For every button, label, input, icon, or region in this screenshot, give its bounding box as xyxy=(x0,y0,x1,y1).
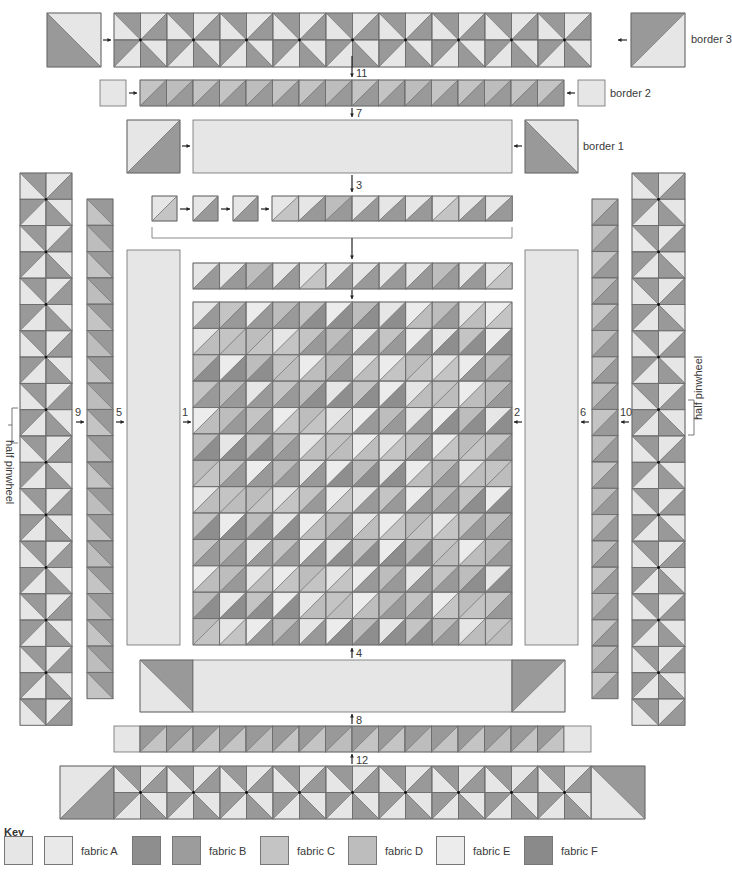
arrow-icon xyxy=(183,420,191,424)
border-1-top-left-corner xyxy=(127,120,180,173)
right-border-1-strip xyxy=(525,250,578,645)
border-1-top-strip xyxy=(193,120,512,173)
step-label-6: 6 xyxy=(580,406,586,418)
fabric-swatch-fabric-f xyxy=(524,836,553,865)
step-label-10: 10 xyxy=(620,406,632,418)
fabric-label: fabric F xyxy=(561,845,598,857)
arrow-icon xyxy=(567,91,575,95)
arrow-icon xyxy=(261,207,269,211)
border-2-top-left-square xyxy=(100,80,126,106)
step-label-1: 1 xyxy=(182,406,188,418)
grid-top-row xyxy=(193,263,512,289)
fabric-swatch-fabric-a xyxy=(4,836,33,865)
arrow-icon xyxy=(350,290,354,299)
arrow-icon xyxy=(116,420,124,424)
border-1-top-right-corner xyxy=(525,120,578,173)
step-label-9: 9 xyxy=(75,406,81,418)
step-label-12: 12 xyxy=(356,754,368,766)
arrow-icon xyxy=(182,144,190,148)
arrow-icon xyxy=(180,207,190,211)
step-label-11: 11 xyxy=(356,67,367,79)
left-border-1-strip xyxy=(127,250,180,645)
arrow-icon xyxy=(350,714,354,724)
border-2-bottom xyxy=(114,726,591,752)
fabric-label: fabric C xyxy=(297,845,335,857)
step-label-2: 2 xyxy=(514,406,520,418)
border-3-top-right-corner xyxy=(631,13,685,67)
fabric-swatch-fabric-b xyxy=(132,836,161,865)
fabric-swatch-fabric-e xyxy=(436,836,465,865)
arrow-icon xyxy=(350,175,354,192)
fabric-label: fabric E xyxy=(473,845,510,857)
border-1-bottom xyxy=(140,660,565,712)
border-2-top-strip xyxy=(140,80,564,106)
border-3-bottom-strip xyxy=(114,766,591,819)
right-border-2-strip xyxy=(592,199,618,699)
arrow-icon xyxy=(350,754,354,764)
half-pinwheel-label-right: half pinwheel xyxy=(692,356,704,420)
left-border-2-strip xyxy=(87,199,113,699)
sub-row-assembly xyxy=(152,196,512,238)
arrow-icon xyxy=(514,420,522,424)
border-2-label: border 2 xyxy=(610,87,651,99)
step-label-3: 3 xyxy=(356,179,362,191)
arrow-icon xyxy=(618,38,627,42)
step-label-5: 5 xyxy=(116,406,122,418)
half-pinwheel-label-left: half pinwheel xyxy=(4,440,16,504)
arrow-icon xyxy=(350,648,354,658)
step-label-7: 7 xyxy=(356,107,362,119)
border-2-top-right-square xyxy=(578,80,605,106)
border-1-label: border 1 xyxy=(583,140,624,152)
arrow-icon xyxy=(581,420,589,424)
arrow-icon xyxy=(350,108,354,117)
step-label-8: 8 xyxy=(356,714,362,726)
fabric-label: fabric D xyxy=(385,845,423,857)
fabric-swatch-fabric-b xyxy=(172,836,201,865)
fabric-swatch-fabric-d xyxy=(348,836,377,865)
fabric-swatch-fabric-c xyxy=(260,836,289,865)
arrow-icon xyxy=(350,238,354,259)
left-border-3-pinwheel-strip xyxy=(20,173,72,725)
fabric-label: fabric A xyxy=(81,845,118,857)
arrow-icon xyxy=(129,91,137,95)
fabric-label: fabric B xyxy=(209,845,246,857)
arrow-icon xyxy=(76,420,84,424)
arrow-icon xyxy=(514,144,522,148)
arrow-icon xyxy=(103,38,111,42)
quilt-center-grid xyxy=(193,302,512,645)
border-3-label: border 3 xyxy=(691,33,732,45)
arrow-icon xyxy=(221,207,230,211)
border-3-top-left-corner xyxy=(47,13,101,67)
fabric-swatch-fabric-a xyxy=(44,836,73,865)
right-border-3-pinwheel-strip xyxy=(632,173,685,725)
step-label-4: 4 xyxy=(356,647,362,659)
arrow-icon xyxy=(621,420,629,424)
